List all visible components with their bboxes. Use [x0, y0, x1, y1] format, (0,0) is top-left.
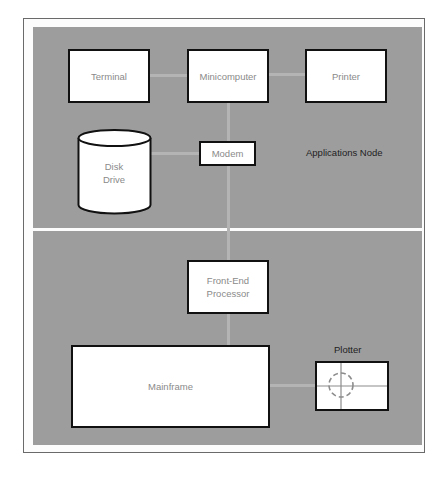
connector-modem-disk-drive [150, 152, 199, 155]
connector-minicomputer-printer [268, 73, 305, 76]
connector-mainframe-plotter [269, 384, 315, 387]
front-end-processor-node: Front-End Processor [187, 260, 269, 314]
connector-minicomputer-modem [227, 102, 230, 141]
plotter-label: Plotter [334, 344, 361, 355]
terminal-node: Terminal [68, 49, 150, 103]
mainframe-label: Mainframe [148, 380, 193, 393]
applications-node-label: Applications Node [306, 147, 383, 158]
front-end-processor-label: Front-End Processor [207, 274, 250, 300]
connector-terminal-minicomputer [149, 74, 187, 77]
minicomputer-node: Minicomputer [187, 49, 269, 103]
modem-node: Modem [199, 141, 256, 166]
disk-drive-label: Disk Drive [77, 160, 151, 186]
minicomputer-label: Minicomputer [199, 70, 256, 83]
modem-label: Modem [212, 147, 244, 160]
connector-modem-front-end-processor [227, 165, 230, 260]
connector-front-end-processor-mainframe [227, 313, 230, 345]
terminal-label: Terminal [91, 70, 127, 83]
printer-label: Printer [332, 70, 360, 83]
printer-node: Printer [305, 49, 387, 103]
plotter-crosshair-icon [317, 363, 387, 409]
mainframe-node: Mainframe [71, 345, 270, 428]
